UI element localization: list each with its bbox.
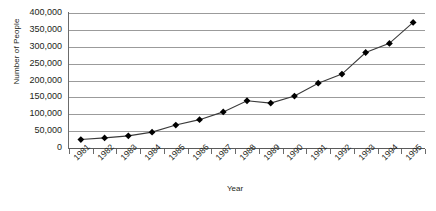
x-axis-tick-mark bbox=[235, 149, 236, 154]
x-axis-tick-mark bbox=[69, 149, 70, 154]
x-axis-tick-mark bbox=[140, 149, 141, 154]
y-axis-tick-label: 350,000 bbox=[14, 25, 62, 34]
gridline bbox=[69, 64, 425, 65]
x-axis-tick-mark bbox=[283, 149, 284, 154]
plot-area bbox=[69, 13, 425, 148]
y-axis-tick-label: 300,000 bbox=[14, 42, 62, 51]
line-chart: Number of People 400,000350,000300,00025… bbox=[0, 0, 436, 211]
x-axis-title-text: Year bbox=[227, 184, 243, 193]
x-axis-tick-mark bbox=[259, 149, 260, 154]
gridline bbox=[69, 97, 425, 98]
y-axis-tick-label: 200,000 bbox=[14, 76, 62, 85]
gridline bbox=[69, 47, 425, 48]
x-axis-tick-mark bbox=[330, 149, 331, 154]
x-axis-tick-mark bbox=[93, 149, 94, 154]
y-axis-tick-label: 400,000 bbox=[14, 8, 62, 17]
x-axis-tick-mark bbox=[164, 149, 165, 154]
x-axis-tick-mark bbox=[401, 149, 402, 154]
y-axis-tick-label: 100,000 bbox=[14, 109, 62, 118]
y-axis-tick-label: 150,000 bbox=[14, 92, 62, 101]
x-axis-tick-mark bbox=[354, 149, 355, 154]
x-axis-tick-mark bbox=[211, 149, 212, 154]
x-axis-title: Year bbox=[0, 184, 436, 193]
gridline bbox=[69, 13, 425, 14]
gridline bbox=[69, 114, 425, 115]
gridline bbox=[69, 30, 425, 31]
x-axis-tick-mark bbox=[188, 149, 189, 154]
x-axis-tick-mark bbox=[306, 149, 307, 154]
y-axis-tick-labels: 400,000350,000300,000250,000200,000150,0… bbox=[14, 0, 62, 211]
x-axis-tick-mark bbox=[425, 149, 426, 154]
x-axis-tick-mark bbox=[116, 149, 117, 154]
gridline bbox=[69, 81, 425, 82]
y-axis-tick-label: 0 bbox=[14, 143, 62, 152]
y-axis-tick-label: 250,000 bbox=[14, 59, 62, 68]
x-axis-tick-mark bbox=[378, 149, 379, 154]
y-axis-tick-label: 50,000 bbox=[14, 126, 62, 135]
gridline bbox=[69, 131, 425, 132]
